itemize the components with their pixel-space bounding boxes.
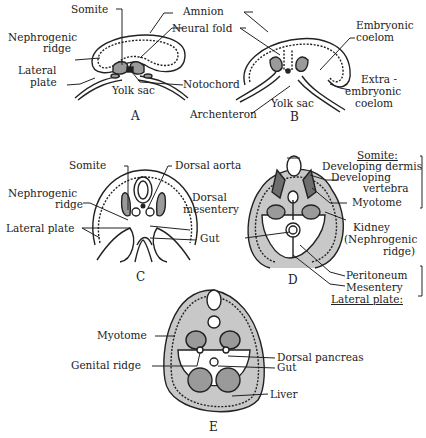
label-a-lateral-2: plate [30, 77, 57, 88]
label-a-nephrogenic-2: ridge [43, 43, 71, 54]
panel-letter-e: E [209, 420, 218, 434]
label-d-kidney-1: Kidney [353, 222, 390, 233]
label-c-dorsal-mesentery-1: Dorsal [192, 192, 227, 203]
label-d-kidney-2: (Nephrogenic [344, 234, 417, 245]
panel-letter-d: D [288, 273, 298, 287]
label-b-yolk-sac: Yolk sac [271, 98, 314, 109]
label-d-myotome: Myotome [352, 197, 402, 208]
label-c-dorsal-aorta: Dorsal aorta [175, 160, 241, 171]
label-d-kidney-3: ridge) [383, 246, 415, 257]
label-c-gut: Gut [200, 233, 219, 244]
panel-letter-b: B [290, 110, 299, 124]
label-b-embryonic-2: coelom [356, 32, 394, 43]
label-b-extra-3: coelom [355, 98, 393, 109]
label-d-developing-vertebra-2: vertebra [363, 183, 409, 194]
label-a-yolk-sac: Yolk sac [112, 85, 155, 96]
label-d-lateral-plate-heading: Lateral plate: [331, 294, 403, 305]
label-c-nephrogenic-2: ridge [55, 199, 83, 210]
label-e-myotome: Myotome [97, 330, 147, 341]
panel-letter-a: A [131, 109, 140, 123]
label-a-lateral-1: Lateral [18, 65, 56, 76]
label-c-lateral-plate: Lateral plate [6, 223, 74, 234]
panel-c-drawing [82, 166, 197, 262]
label-d-mesentery: Mesentery [346, 282, 403, 293]
label-a-notochord: Notochord [183, 79, 240, 90]
label-a-neural-fold: Neural fold [172, 23, 232, 34]
label-a-somite: Somite [71, 4, 108, 15]
label-e-gut: Gut [277, 362, 296, 373]
label-e-genital-ridge: Genital ridge [71, 360, 141, 371]
panel-e-drawing [152, 290, 275, 412]
label-e-liver: Liver [270, 389, 298, 400]
label-c-somite: Somite [69, 160, 106, 171]
embryo-diagram-drawing [0, 0, 426, 438]
label-c-dorsal-mesentery-2: mesentery [183, 204, 239, 215]
label-d-peritoneum: Peritoneum [346, 270, 407, 281]
panel-letter-c: C [136, 270, 145, 284]
label-b-embryonic-1: Embryonic [356, 20, 414, 31]
label-b-archenteron: Archenteron [190, 109, 257, 120]
label-b-extra-1: Extra - [361, 74, 397, 85]
label-a-amnion: Amnion [183, 6, 224, 17]
label-b-extra-2: embryonic [345, 86, 401, 97]
